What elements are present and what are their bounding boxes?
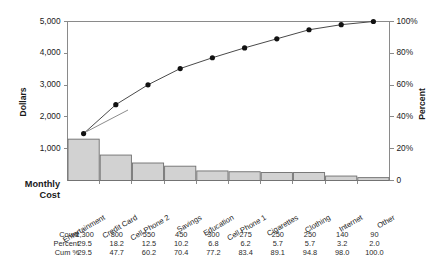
- y-tick-label: 5,000: [40, 16, 61, 26]
- table-cell-r0-c4: 300: [207, 230, 219, 239]
- y2-tick-label: 20%: [397, 143, 414, 153]
- cumulative-point-0: [81, 131, 86, 136]
- bar-5: [229, 172, 260, 181]
- table-cell-r2-c7: 94.8: [303, 248, 317, 257]
- table-cell-r1-c2: 12.5: [142, 239, 156, 248]
- cumulative-line: [84, 22, 374, 134]
- y-tick-label: 2,000: [40, 111, 61, 121]
- y-tick-label: 4,000: [40, 47, 61, 57]
- bar-9: [358, 178, 389, 181]
- bar-2: [132, 163, 163, 180]
- leader-line: [87, 110, 128, 132]
- table-row-label-1: Percent: [54, 239, 79, 248]
- bar-7: [293, 173, 324, 181]
- table-cell-r2-c9: 100.0: [365, 248, 384, 257]
- cumulative-point-2: [145, 82, 150, 87]
- cumulative-point-7: [306, 27, 311, 32]
- table-cell-r2-c2: 60.2: [142, 248, 156, 257]
- table-cell-r0-c8: 140: [336, 230, 348, 239]
- bar-series: [68, 139, 389, 180]
- table-cell-r1-c6: 5.7: [273, 239, 283, 248]
- table-cell-r2-c5: 83.4: [238, 248, 252, 257]
- cumulative-point-5: [242, 45, 247, 50]
- corner-label-line2: Cost: [40, 190, 60, 200]
- table-cell-r0-c1: 800: [111, 230, 123, 239]
- y2-tick-label: 60%: [397, 79, 414, 89]
- table-cell-r1-c8: 3.2: [337, 239, 347, 248]
- y2-tick-label: 40%: [397, 111, 414, 121]
- pareto-chart-svg: 1,0002,0003,0004,0005,000 020%40%60%80%1…: [0, 0, 436, 269]
- bar-0: [68, 139, 99, 180]
- y-tick-label: 3,000: [40, 79, 61, 89]
- table-cell-r0-c9: 90: [370, 230, 378, 239]
- table-cell-r0-c2: 550: [143, 230, 155, 239]
- bar-8: [326, 176, 357, 180]
- table-cell-r1-c5: 6.2: [240, 239, 250, 248]
- table-cell-r2-c1: 47.7: [110, 248, 124, 257]
- cumulative-point-9: [371, 19, 376, 24]
- table-cell-r1-c1: 18.2: [110, 239, 124, 248]
- cumulative-point-3: [178, 66, 183, 71]
- table-cell-r1-c4: 6.8: [208, 239, 218, 248]
- y2-axis-title: Percent: [417, 88, 427, 120]
- table-cell-r0-c5: 275: [239, 230, 251, 239]
- cumulative-point-8: [339, 22, 344, 27]
- category-label-9: Other: [375, 213, 396, 231]
- y-axis-title: Dollars: [18, 87, 28, 116]
- table-cell-r1-c7: 5.7: [305, 239, 315, 248]
- table-cell-r0-c3: 450: [175, 230, 187, 239]
- cumulative-point-6: [274, 36, 279, 41]
- table-cell-r2-c4: 77.2: [206, 248, 220, 257]
- table-cell-r2-c0: 29.5: [77, 248, 91, 257]
- y-tick-label: 1,000: [40, 143, 61, 153]
- left-axis-ticks: 1,0002,0003,0004,0005,000: [40, 16, 68, 153]
- bar-3: [165, 166, 196, 180]
- y2-tick-label: 80%: [397, 47, 414, 57]
- table-cell-r2-c3: 70.4: [174, 248, 188, 257]
- table-cell-r2-c8: 98.0: [335, 248, 349, 257]
- bar-6: [261, 173, 292, 181]
- table-cell-r1-c3: 10.2: [174, 239, 188, 248]
- table-cell-r1-c9: 2.0: [369, 239, 379, 248]
- table-cell-r0-c7: 250: [304, 230, 316, 239]
- bar-4: [197, 171, 228, 181]
- cumulative-point-4: [210, 55, 215, 60]
- corner-label-line1: Monthly: [25, 179, 61, 189]
- y2-tick-label: 0: [397, 175, 402, 185]
- right-axis-ticks: 020%40%60%80%100%: [390, 16, 419, 185]
- table-cell-r0-c6: 250: [272, 230, 284, 239]
- table-cell-r1-c0: 29.5: [77, 239, 91, 248]
- pareto-chart: 1,0002,0003,0004,0005,000 020%40%60%80%1…: [0, 0, 436, 269]
- table-row-label-2: Cum %: [55, 248, 80, 257]
- table-cell-r0-c0: 1,300: [75, 230, 94, 239]
- y2-tick-label: 100%: [397, 16, 419, 26]
- cumulative-markers: [81, 19, 376, 136]
- cumulative-point-1: [113, 102, 118, 107]
- table-cell-r2-c6: 89.1: [271, 248, 285, 257]
- first-point-leader: [87, 110, 128, 132]
- bar-1: [100, 155, 131, 180]
- cumulative-polyline: [84, 22, 374, 134]
